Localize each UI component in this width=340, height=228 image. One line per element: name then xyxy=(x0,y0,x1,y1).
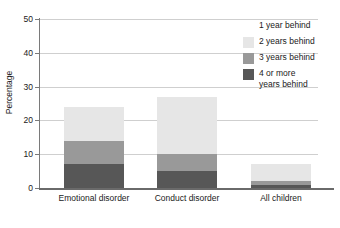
bar-stack xyxy=(64,107,124,188)
bar-segment-3-years-behind[interactable] xyxy=(157,154,217,171)
legend-swatch-icon xyxy=(243,53,254,64)
legend-label: 3 years behind xyxy=(259,52,315,63)
bar-segment-4-or-more-years-behind[interactable] xyxy=(157,171,217,188)
stacked-bar-chart: Percentage 0 10 20 30 40 50 xyxy=(0,0,340,228)
legend-label: 2 years behind xyxy=(259,36,315,47)
bar-segment-2-years-behind[interactable] xyxy=(157,97,217,154)
bar-stack xyxy=(157,97,217,188)
legend-item-3-years-behind[interactable]: 3 years behind xyxy=(243,52,338,65)
bar-segment-2-years-behind[interactable] xyxy=(251,164,311,181)
bar-segment-2-years-behind[interactable] xyxy=(64,107,124,141)
bar-segment-3-years-behind[interactable] xyxy=(64,141,124,165)
legend-swatch-icon xyxy=(243,37,254,48)
legend-label: 4 or more years behind xyxy=(259,68,308,89)
y-axis-tick-labels: 0 10 20 30 40 50 xyxy=(0,19,33,188)
legend-item-2-years-behind[interactable]: 2 years behind xyxy=(243,36,338,49)
bar-segment-4-or-more-years-behind[interactable] xyxy=(64,164,124,188)
y-tick-label-0: 0 xyxy=(0,184,33,193)
y-tick-label-50: 50 xyxy=(0,15,33,24)
y-tick-label-30: 30 xyxy=(0,83,33,92)
legend-swatch-icon xyxy=(243,69,254,80)
y-tick-label-20: 20 xyxy=(0,116,33,125)
chart-legend: 1 year behind 2 years behind 3 years beh… xyxy=(243,20,338,92)
legend-item-4-or-more-years-behind[interactable]: 4 or more years behind xyxy=(243,68,338,89)
legend-swatch-icon xyxy=(243,21,254,32)
y-tick-label-10: 10 xyxy=(0,150,33,159)
legend-item-1-year-behind[interactable]: 1 year behind xyxy=(243,20,338,33)
y-tick-label-40: 40 xyxy=(0,49,33,58)
legend-label: 1 year behind xyxy=(259,20,311,31)
x-axis-line xyxy=(39,188,334,190)
bar-stack xyxy=(251,164,311,188)
x-tick-label-all-children: All children xyxy=(221,193,340,203)
